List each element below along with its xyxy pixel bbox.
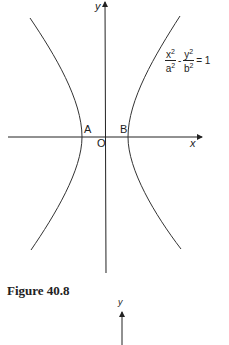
next-figure-y-label: y bbox=[118, 297, 123, 307]
hyperbola-equation: x2a2 - y2b2 = 1 bbox=[165, 47, 210, 75]
x-axis-label: x bbox=[190, 137, 196, 149]
point-a-label: A bbox=[84, 123, 91, 135]
point-b-label: B bbox=[120, 123, 127, 135]
figure-caption: Figure 40.8 bbox=[7, 283, 70, 299]
origin-label: O bbox=[97, 137, 106, 149]
y-axis-label: y bbox=[95, 0, 101, 12]
left-branch bbox=[30, 18, 82, 250]
